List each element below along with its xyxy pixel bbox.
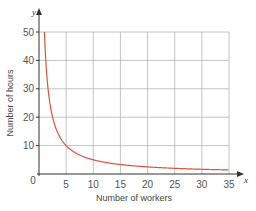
x-axis-label: Number of workers	[96, 193, 173, 203]
hyperbola-chart: 5101520253035 1020304050 0 x y Number of…	[0, 0, 256, 211]
y-arrow-icon	[36, 8, 42, 15]
y-tick-label: 40	[23, 55, 35, 66]
x-tick-labels: 5101520253035	[63, 179, 235, 190]
x-tick-label: 20	[142, 179, 154, 190]
x-tick-label: 30	[196, 179, 208, 190]
y-axis-letter: y	[31, 7, 36, 17]
y-tick-label: 30	[23, 83, 35, 94]
x-tick-label: 35	[223, 179, 235, 190]
y-tick-labels: 1020304050	[23, 27, 35, 152]
x-arrow-icon	[237, 171, 244, 177]
x-axis-letter: x	[243, 175, 248, 185]
origin-label: 0	[30, 175, 36, 186]
grid-lines	[39, 32, 229, 174]
y-tick-label: 10	[23, 140, 35, 151]
x-tick-label: 25	[169, 179, 181, 190]
axes	[36, 8, 244, 177]
y-axis-label: Number of hours	[5, 69, 15, 137]
y-tick-label: 20	[23, 112, 35, 123]
y-tick-label: 50	[23, 27, 35, 38]
x-tick-label: 15	[115, 179, 127, 190]
x-tick-label: 5	[63, 179, 69, 190]
data-curve	[44, 32, 228, 170]
x-tick-label: 10	[88, 179, 100, 190]
